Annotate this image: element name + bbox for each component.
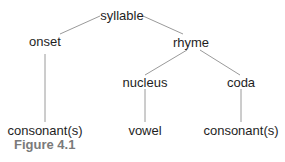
node-coda: coda xyxy=(227,75,255,90)
edge-syllable-rhyme xyxy=(143,16,183,34)
edge-syllable-onset xyxy=(60,16,100,34)
node-nucleus: nucleus xyxy=(123,75,168,90)
edge-rhyme-nucleus xyxy=(145,50,187,75)
node-vowel: vowel xyxy=(128,123,161,138)
syllable-structure-figure: syllable onset rhyme nucleus coda conson… xyxy=(0,0,285,162)
figure-caption: Figure 4.1 xyxy=(14,137,75,152)
node-syllable: syllable xyxy=(100,8,143,23)
node-coda-consonants: consonant(s) xyxy=(203,123,278,138)
node-rhyme: rhyme xyxy=(173,35,209,50)
node-onset: onset xyxy=(29,34,61,49)
edge-rhyme-coda xyxy=(200,50,240,75)
node-onset-consonants: consonant(s) xyxy=(7,123,82,138)
